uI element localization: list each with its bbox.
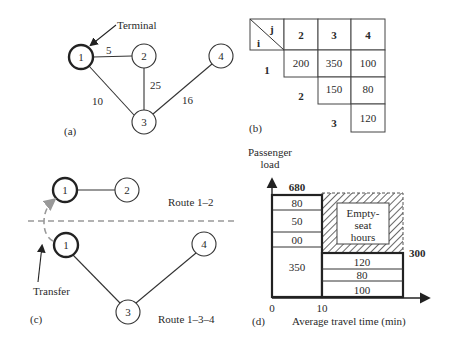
y-axis-label-line1: Passenger (248, 146, 292, 158)
empty-seat-label: hours (351, 231, 375, 243)
transfer-pointer-icon (38, 246, 42, 282)
panel-a-network: Terminal 1 2 3 4 5 10 25 16 (a) (64, 19, 233, 138)
panel-d-load-chart: Passenger load Empty- seat hours 80 50 0… (248, 146, 428, 328)
x-tick-0: 0 (269, 302, 275, 314)
matrix-value: 100 (360, 57, 377, 69)
left-segment-value: 00 (292, 234, 304, 246)
panel-b-od-matrix: j i 2 3 4 200 350 100 1 150 80 2 120 3 (… (249, 19, 385, 135)
node-label: 1 (62, 184, 68, 196)
empty-seat-label: Empty- (347, 207, 380, 219)
left-segment-value: 80 (292, 197, 304, 209)
col-header: 3 (331, 29, 337, 41)
route-1-3-4-edge-1-3 (73, 255, 120, 303)
right-total: 300 (409, 247, 426, 259)
matrix-value: 200 (293, 57, 310, 69)
right-segment-value: 80 (357, 269, 369, 281)
right-segment-value: 120 (354, 256, 371, 268)
left-total: 680 (289, 181, 306, 193)
weight-1-2: 5 (106, 44, 112, 56)
x-tick-10: 10 (317, 302, 329, 314)
panel-b-label: (b) (249, 122, 262, 135)
left-segment-value: 50 (292, 215, 304, 227)
matrix-value: 120 (360, 112, 377, 124)
node-label: 4 (201, 238, 207, 250)
edge-1-3 (89, 66, 134, 115)
row-header: 1 (264, 64, 270, 76)
panel-c-routes: 1 2 Route 1–2 1 3 4 Transfer Route 1–3–4… (28, 178, 234, 326)
empty-seat-label: seat (354, 219, 371, 231)
node-2-label: 2 (141, 50, 147, 62)
weight-2-3: 25 (150, 79, 162, 91)
node-label: 2 (124, 184, 130, 196)
corner-i: i (257, 37, 260, 49)
node-4-label: 4 (218, 50, 224, 62)
col-header: 2 (298, 29, 304, 41)
panel-c-label: (c) (30, 313, 43, 326)
terminal-arrow-icon (91, 25, 116, 45)
matrix-value: 150 (326, 83, 343, 95)
col-header: 4 (365, 29, 371, 41)
corner-j: j (269, 23, 274, 35)
transfer-label: Transfer (33, 285, 70, 297)
node-label: 3 (125, 306, 131, 318)
left-segment-value: 350 (289, 261, 306, 273)
node-3-label: 3 (141, 116, 147, 128)
figure-canvas: Terminal 1 2 3 4 5 10 25 16 (a) j i 2 3 … (0, 0, 450, 341)
matrix-value: 80 (363, 83, 375, 95)
edge-3-4 (153, 64, 212, 114)
row-header: 2 (298, 90, 304, 102)
terminal-label: Terminal (117, 19, 157, 31)
right-segment-value: 100 (354, 284, 371, 296)
x-axis-label: Average travel time (min) (292, 315, 406, 328)
panel-d-label: (d) (252, 315, 265, 328)
row-header: 3 (331, 117, 337, 129)
matrix-value: 350 (326, 57, 343, 69)
route-1-3-4-edge-3-4 (136, 253, 196, 303)
y-axis-label-line2: load (261, 158, 280, 170)
edge-1-2 (93, 56, 132, 57)
route-1-2-label: Route 1–2 (168, 196, 214, 208)
node-label: 1 (63, 239, 69, 251)
node-1-label: 1 (78, 51, 84, 63)
weight-3-4: 16 (182, 94, 194, 106)
route-1-3-4-label: Route 1–3–4 (158, 313, 215, 325)
weight-1-3: 10 (92, 95, 104, 107)
panel-a-label: (a) (64, 125, 77, 138)
